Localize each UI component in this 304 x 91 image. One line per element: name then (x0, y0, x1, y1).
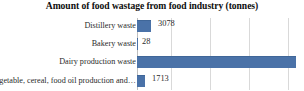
bar-fill (137, 38, 138, 50)
bar-distillery-waste (137, 20, 151, 32)
category-label-distillery-waste: Distillery waste (0, 21, 136, 31)
bar-dairy-production-waste (137, 56, 296, 68)
category-label-vegetable-cereal-food-oil: getable, cereal, food oil production and… (0, 76, 136, 86)
bar-row-vegetable-cereal-food-oil: getable, cereal, food oil production and… (0, 72, 304, 90)
bar-bakery-waste (137, 38, 138, 50)
bar-row-bakery-waste: Bakery waste 28 (0, 35, 304, 53)
bar-row-distillery-waste: Distillery waste 3078 (0, 17, 304, 35)
plot-area: Distillery waste 3078 Bakery waste 28 Da… (0, 17, 304, 91)
bar-fill (137, 75, 145, 87)
bar-fill (137, 56, 296, 68)
chart-title: Amount of food wastage from food industr… (0, 0, 304, 12)
bar-value-distillery-waste: 3078 (158, 19, 175, 29)
bar-fill (137, 20, 151, 32)
bar-rows: Distillery waste 3078 Bakery waste 28 Da… (0, 17, 304, 91)
category-label-bakery-waste: Bakery waste (0, 39, 136, 49)
bar-vegetable-cereal-food-oil (137, 75, 145, 87)
bar-value-bakery-waste: 28 (142, 37, 150, 47)
bar-row-dairy-production-waste: Dairy production waste (0, 53, 304, 71)
bar-value-vegetable-cereal-food-oil: 1713 (152, 74, 169, 84)
bar-chart: Amount of food wastage from food industr… (0, 0, 304, 91)
category-label-dairy-production-waste: Dairy production waste (0, 57, 136, 67)
